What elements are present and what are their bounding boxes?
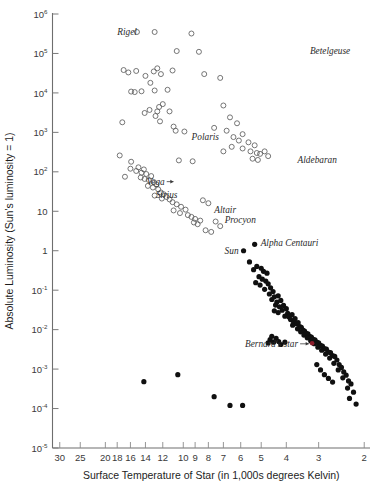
data-point-filled xyxy=(253,280,258,285)
data-point-open xyxy=(200,198,205,203)
data-point-filled xyxy=(326,376,331,381)
data-point-open xyxy=(177,211,182,216)
data-point-open xyxy=(266,154,271,159)
data-point-open xyxy=(250,156,255,161)
data-point-open xyxy=(121,68,126,73)
data-point-filled xyxy=(227,403,232,408)
x-tick-label: 10 xyxy=(178,452,189,463)
y-tick-label: 106 xyxy=(33,8,48,20)
x-tick-label: 16 xyxy=(125,452,136,463)
data-point-open xyxy=(126,70,131,75)
y-tick-label: 103 xyxy=(33,126,48,138)
star-label-rigel: Rigel xyxy=(116,27,137,37)
data-point-open xyxy=(202,72,207,77)
data-point-filled xyxy=(331,361,336,366)
data-point-open xyxy=(171,208,176,213)
x-tick-label: 5 xyxy=(259,452,264,463)
x-tick-label: 6 xyxy=(238,452,243,463)
data-point-filled xyxy=(175,372,180,377)
data-point-open xyxy=(117,153,122,158)
data-point-open xyxy=(227,115,232,120)
series-bernards-star xyxy=(310,341,315,346)
data-point-open xyxy=(142,110,147,115)
data-point-open xyxy=(189,31,194,36)
data-point-bernards-star xyxy=(310,341,315,346)
y-tick-label: 10 xyxy=(37,206,48,217)
data-point-open xyxy=(158,119,163,124)
data-point-filled xyxy=(330,379,335,384)
x-tick-label: 14 xyxy=(140,452,151,463)
data-point-open xyxy=(152,29,157,34)
x-tick-group: 302520181614121098765432 xyxy=(54,442,366,463)
x-tick-label: 30 xyxy=(54,452,65,463)
data-point-open xyxy=(198,218,203,223)
data-point-open xyxy=(143,73,148,78)
data-point-open xyxy=(203,228,208,233)
data-point-open xyxy=(240,132,245,137)
axis-title-group: Surface Temperature of Star (in 1,000s d… xyxy=(3,132,340,481)
data-point-filled xyxy=(252,242,257,247)
star-label-aldebaran: Aldebaran xyxy=(297,155,338,165)
data-point-filled xyxy=(257,282,262,287)
y-tick-label: 102 xyxy=(33,165,48,177)
star-label-altair: Altair xyxy=(213,205,236,215)
data-point-filled xyxy=(314,362,319,367)
x-tick-label: 18 xyxy=(112,452,123,463)
data-point-open xyxy=(129,159,134,164)
data-point-filled xyxy=(212,394,217,399)
data-point-open xyxy=(254,150,259,155)
star-label-procyon: Procyon xyxy=(224,215,257,225)
data-point-open xyxy=(152,88,157,93)
data-point-filled xyxy=(345,385,350,390)
x-tick-label: 12 xyxy=(157,452,168,463)
y-tick-group: 10610510410310210110-110-210-310-410-5 xyxy=(31,8,58,454)
data-point-open xyxy=(182,129,187,134)
y-tick-label: 10-2 xyxy=(31,323,48,335)
y-tick-label: 1 xyxy=(42,245,47,256)
data-point-filled xyxy=(340,375,345,380)
data-point-open xyxy=(262,149,267,154)
y-tick-label: 10-3 xyxy=(31,363,48,375)
data-point-filled xyxy=(267,291,272,296)
star-label-bernard-s-star: Bernard's star xyxy=(245,339,298,349)
data-point-open xyxy=(165,87,170,92)
x-tick-label: 9 xyxy=(192,452,197,463)
data-point-open xyxy=(134,68,139,73)
label-arrowhead xyxy=(306,342,309,346)
data-point-open xyxy=(255,157,260,162)
data-point-open xyxy=(206,201,211,206)
data-point-filled xyxy=(348,381,353,386)
data-point-open xyxy=(240,146,245,151)
data-point-open xyxy=(183,207,188,212)
data-point-open xyxy=(139,89,144,94)
data-point-open xyxy=(147,107,152,112)
scatter-plot-canvas: 302520181614121098765432 106105104103102… xyxy=(0,0,376,497)
data-point-open xyxy=(167,109,172,114)
x-tick-label: 25 xyxy=(75,452,86,463)
data-point-filled xyxy=(318,367,323,372)
axes-group xyxy=(53,13,371,448)
x-tick-label: 7 xyxy=(221,452,226,463)
y-tick-label: 10-5 xyxy=(31,442,48,454)
series-main-sequence-and-dwarfs xyxy=(141,242,358,408)
data-point-open xyxy=(231,135,236,140)
label-arrowhead xyxy=(170,180,173,184)
data-point-open xyxy=(170,68,175,73)
data-point-filled xyxy=(336,367,341,372)
star-label-vega: Vega xyxy=(147,177,165,187)
data-point-open xyxy=(128,166,133,171)
x-tick-label: 8 xyxy=(206,452,211,463)
data-point-filled xyxy=(347,396,352,401)
data-point-filled xyxy=(290,323,295,328)
x-tick-label: 20 xyxy=(100,452,111,463)
data-point-open xyxy=(212,125,217,130)
data-point-open xyxy=(252,143,257,148)
data-point-filled xyxy=(262,287,267,292)
y-tick-label: 105 xyxy=(33,47,48,59)
data-point-filled xyxy=(251,267,256,272)
data-point-open xyxy=(209,229,214,234)
data-point-open xyxy=(196,49,201,54)
star-label-polaris: Polaris xyxy=(191,132,220,142)
data-point-filled xyxy=(284,306,289,311)
data-point-filled xyxy=(276,293,281,298)
